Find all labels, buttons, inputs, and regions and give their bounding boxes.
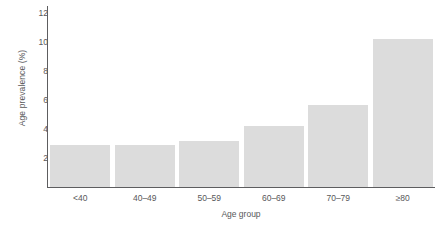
x-axis-title: Age group bbox=[47, 209, 435, 219]
y-tick-label: 10 bbox=[24, 38, 48, 47]
x-tick-label: 50–59 bbox=[177, 193, 242, 203]
bar-slot bbox=[306, 6, 371, 187]
bar[interactable] bbox=[50, 145, 110, 187]
bar-slot bbox=[113, 6, 178, 187]
bar[interactable] bbox=[308, 105, 368, 187]
bar-slot bbox=[48, 6, 113, 187]
bar[interactable] bbox=[115, 145, 175, 187]
x-tick-label: <40 bbox=[48, 193, 113, 203]
y-tick-label: 4 bbox=[24, 125, 48, 134]
y-tick-label: 2 bbox=[24, 154, 48, 163]
y-tick-label: 8 bbox=[24, 67, 48, 76]
bar[interactable] bbox=[373, 39, 433, 187]
bar-slot bbox=[242, 6, 307, 187]
x-tick-label: 70–79 bbox=[306, 193, 371, 203]
y-tick-label: 6 bbox=[24, 96, 48, 105]
bar[interactable] bbox=[244, 126, 304, 187]
bar-slot bbox=[177, 6, 242, 187]
bar-slot bbox=[371, 6, 436, 187]
bar[interactable] bbox=[179, 141, 239, 187]
x-tick-label: 40–49 bbox=[113, 193, 178, 203]
y-tick-label: 12 bbox=[24, 9, 48, 18]
x-tick-label: 60–69 bbox=[242, 193, 307, 203]
x-tick-label: ≥80 bbox=[371, 193, 436, 203]
bar-chart-figure: Age prevalence (%) 24681012 <4040–4950–5… bbox=[0, 0, 436, 228]
plot-area bbox=[48, 6, 435, 187]
